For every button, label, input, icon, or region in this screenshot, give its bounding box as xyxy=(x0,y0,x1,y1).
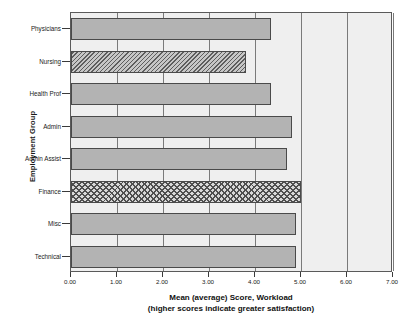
bar-health-prof[interactable] xyxy=(71,83,271,105)
x-axis-label-5.00: 5.00 xyxy=(294,278,306,285)
y-axis-label-health-prof: Health Prof xyxy=(30,90,62,97)
x-axis-tick xyxy=(70,272,71,277)
bar-row xyxy=(71,181,393,203)
x-axis-title-line1: Mean (average) Score, Workload xyxy=(169,293,292,302)
y-axis-tick xyxy=(62,158,70,159)
y-axis-label-nursing: Nursing xyxy=(39,57,61,64)
y-axis-tick xyxy=(62,28,70,29)
bar-misc[interactable] xyxy=(71,213,296,235)
x-axis-tick xyxy=(208,272,209,277)
x-axis-label-7.00: 7.00 xyxy=(386,278,398,285)
bar-physicians[interactable] xyxy=(71,18,271,40)
x-axis-tick-labels: 0.001.002.003.004.005.006.007.00 xyxy=(70,272,392,278)
y-axis-tick xyxy=(62,93,70,94)
bar-row xyxy=(71,51,393,73)
x-axis-label-0.00: 0.00 xyxy=(64,278,76,285)
y-axis-tick xyxy=(62,256,70,257)
x-axis-label-6.00: 6.00 xyxy=(340,278,352,285)
y-axis-label-technical: Technical xyxy=(35,252,61,259)
bar-nursing[interactable] xyxy=(71,51,246,73)
bar-row xyxy=(71,213,393,235)
bar-chart: Employment Group PhysiciansNursingHealth… xyxy=(0,0,404,327)
bar-finance[interactable] xyxy=(71,181,301,203)
x-axis-tick xyxy=(392,272,393,277)
plot-area xyxy=(70,12,392,272)
x-axis-tick xyxy=(254,272,255,277)
bar-row xyxy=(71,83,393,105)
x-axis-tick xyxy=(162,272,163,277)
gridline-7.00 xyxy=(393,13,394,271)
bar-technical[interactable] xyxy=(71,246,296,268)
y-axis-label-admin: Admin xyxy=(43,122,61,129)
x-axis-title: Mean (average) Score, Workload (higher s… xyxy=(70,292,392,314)
x-axis-tick xyxy=(300,272,301,277)
y-axis-label-misc: Misc xyxy=(48,220,61,227)
bar-row xyxy=(71,18,393,40)
x-axis-label-2.00: 2.00 xyxy=(156,278,168,285)
bar-row xyxy=(71,246,393,268)
y-axis-tick xyxy=(62,223,70,224)
x-axis-label-3.00: 3.00 xyxy=(202,278,214,285)
y-axis-tick xyxy=(62,191,70,192)
x-axis-label-4.00: 4.00 xyxy=(248,278,260,285)
bar-admin-assist[interactable] xyxy=(71,148,287,170)
bars-layer xyxy=(71,13,391,271)
bar-admin[interactable] xyxy=(71,116,292,138)
y-axis-tick xyxy=(62,126,70,127)
x-axis-tick xyxy=(116,272,117,277)
bar-row xyxy=(71,148,393,170)
y-axis-label-physicians: Physicians xyxy=(31,25,61,32)
x-axis-title-line2: (higher scores indicate greater satisfac… xyxy=(70,303,392,314)
y-axis-tick xyxy=(62,61,70,62)
bar-row xyxy=(71,116,393,138)
x-axis-label-1.00: 1.00 xyxy=(110,278,122,285)
x-axis-tick xyxy=(346,272,347,277)
y-axis-tick-labels: PhysiciansNursingHealth ProfAdminAdmin A… xyxy=(0,12,70,272)
y-axis-label-admin-assist: Admin Assist xyxy=(25,155,61,162)
y-axis-label-finance: Finance xyxy=(39,187,61,194)
